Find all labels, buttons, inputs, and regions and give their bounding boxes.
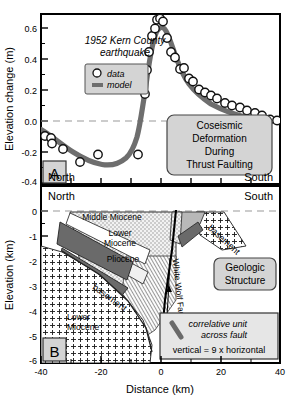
panel-b-ytick-2: -2 [29,257,37,267]
panel-b-ytick-0: 0 [32,207,37,217]
panel-a-ytick-3: 0.0 [24,117,37,127]
panel-b-callout-line1: Geologic [225,262,264,273]
panel-b-callout: Geologic Structure [214,258,276,290]
geo-label-pliocene: Pliocene [107,254,140,264]
panel-a-title-line2: earthquake [100,47,150,58]
panel-a-title-line1: 1952 Kern County [85,35,167,46]
panel-a-ytick-4: -0.2 [21,148,37,158]
panel-b-ytick-6: -6 [29,356,37,366]
geo-label-lower-miocene-left-1: Lower [67,312,90,322]
panel-b-xtick-0: -40 [34,367,47,377]
panel-b: 0 -1 -2 -3 -4 -5 -6 Elevation (km) North… [3,186,285,395]
open-circle-icon [93,69,101,77]
panel-b-ytick-5: -5 [29,332,37,342]
geo-label-lower-miocene-2: Miocene [104,238,136,248]
panel-b-ytick-4: -4 [29,307,37,317]
geo-label-middle-miocene: Middle Miocene [82,212,142,222]
panel-b-legend-line1: correlative unit [188,319,247,329]
panel-a-ytick-0: 0.6 [24,24,37,34]
panel-a-ytick-2: 0.2 [24,86,37,96]
panel-b-xlabel: Distance (km) [126,383,194,395]
panel-a: 0.6 0.4 0.2 0.0 -0.2 -0.4 Elevation chan… [3,14,281,187]
panel-b-legend-line2: across fault [201,330,248,340]
panel-b-xtick-4: 40 [275,367,285,377]
panel-a-ytick-5: -0.4 [21,177,37,187]
panel-b-letter: B [49,343,59,360]
panel-b-ytick-1: -1 [29,232,37,242]
panel-a-ylabel: Elevation change (m) [3,47,15,151]
panel-a-legend: data model [85,64,148,94]
panel-b-legend: correlative unit across fault vertical =… [160,313,278,359]
geo-label-lower-miocene-1: Lower [108,228,131,238]
panel-b-xtick-3: 20 [216,367,226,377]
panel-b-ytick-3: -3 [29,282,37,292]
panel-b-legend-line3: vertical = 9 x horizontal [173,345,265,355]
panel-a-legend-model-label: model [107,80,133,90]
panel-a-callout-line1: Coseismic [196,120,242,131]
panel-b-xtick-2: 0 [158,367,163,377]
thick-gray-line-icon [92,83,103,87]
panel-b-ylabel: Elevation (km) [3,240,15,310]
geo-label-lower-miocene-left-2: Miocene [67,322,99,332]
panel-b-direction-right: South [244,190,273,202]
panel-a-callout: Coseismic Deformation During Thrust Faul… [167,115,272,175]
panel-a-legend-data-label: data [107,69,125,79]
panel-b-direction-left: North [48,190,75,202]
panel-b-callout-line2: Structure [225,275,266,286]
figure-root: 0.6 0.4 0.2 0.0 -0.2 -0.4 Elevation chan… [0,0,293,403]
panel-a-direction-right: South [244,171,273,183]
figure-svg: 0.6 0.4 0.2 0.0 -0.2 -0.4 Elevation chan… [0,0,293,403]
panel-b-letter-badge: B [43,338,66,361]
panel-a-ytick-1: 0.4 [24,55,37,65]
panel-a-callout-line3: During [205,146,234,157]
panel-b-xtick-1: -20 [94,367,107,377]
panel-a-callout-line2: Deformation [192,133,246,144]
panel-a-callout-line4: Thrust Faulting [186,159,253,170]
panel-a-direction-left: North [48,171,75,183]
